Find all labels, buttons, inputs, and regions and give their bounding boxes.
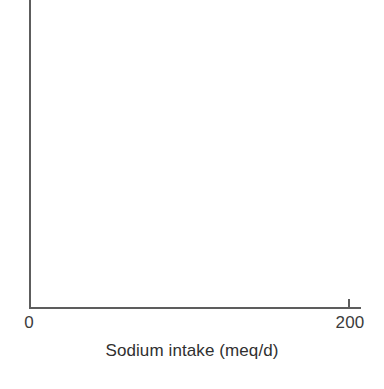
x-axis-tick-200	[348, 299, 350, 308]
plot-area	[31, 0, 361, 307]
x-axis-line	[29, 307, 361, 309]
x-axis-tick-label-0: 0	[24, 313, 34, 333]
x-axis-tick-label-200: 200	[336, 313, 365, 333]
y-axis-line	[29, 0, 31, 309]
x-axis-title: Sodium intake (meq/d)	[0, 340, 384, 361]
chart-figure: 0 200 Sodium intake (meq/d)	[0, 0, 384, 389]
